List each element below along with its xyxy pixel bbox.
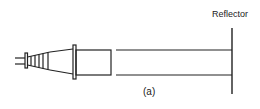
waveguide-section — [76, 50, 111, 75]
diagram-canvas: Reflector (a) — [0, 0, 260, 109]
stepped-transition — [28, 52, 51, 70]
coax-feed-wires — [15, 58, 26, 64]
reflector-label: Reflector — [212, 9, 248, 19]
transmission-lines — [116, 50, 232, 75]
horn-taper — [50, 49, 73, 74]
feed-flange-small — [25, 53, 28, 68]
figure-caption: (a) — [143, 86, 155, 97]
